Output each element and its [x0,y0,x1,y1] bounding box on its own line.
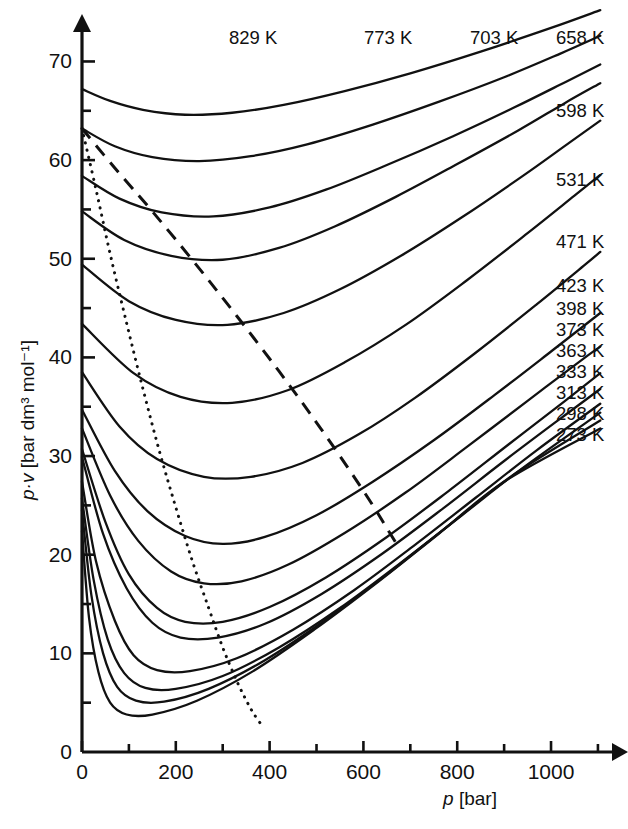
series-label-363K: 363 K [556,340,605,361]
series-label-598K: 598 K [556,100,605,121]
series-label-398K: 398 K [556,298,605,319]
pv-vs-p-isotherm-chart: 02004006008001000 010203040506070 829 K7… [0,0,628,829]
isotherm-curves-layer [82,10,600,716]
isotherm-curve-363K [82,389,600,639]
y-tick-label: 20 [49,543,72,566]
series-label-829K: 829 K [229,27,278,48]
series-label-773K: 773 K [364,27,413,48]
y-tick-label: 30 [49,444,72,467]
y-tick-label: 10 [49,641,72,664]
isotherm-curve-773K [82,36,600,161]
x-axis-title: p [bar] [442,788,497,809]
x-tick-label: 1000 [528,760,575,783]
isotherm-curve-273K [82,428,600,716]
series-label-273K: 273 K [556,424,605,445]
x-axis-ticks [82,741,598,752]
series-label-373K: 373 K [556,319,605,340]
series-label-531K: 531 K [556,169,605,190]
x-axis-tick-labels: 02004006008001000 [76,760,574,783]
x-tick-label: 400 [252,760,287,783]
series-label-423K: 423 K [556,275,605,296]
series-label-313K: 313 K [556,382,605,403]
y-tick-label: 0 [60,740,72,763]
x-tick-label: 600 [346,760,381,783]
y-tick-label: 40 [49,345,72,368]
x-axis-arrow-head [612,743,628,761]
isotherm-curve-398K [82,347,600,585]
isotherm-curve-373K [82,373,600,623]
isotherm-curve-423K [82,313,600,544]
isotherm-curve-313K [82,413,600,690]
y-axis-tick-labels: 010203040506070 [49,49,72,763]
series-label-658K: 658 K [556,27,605,48]
x-tick-label: 800 [440,760,475,783]
series-label-333K: 333 K [556,361,605,382]
x-tick-label: 0 [76,760,88,783]
y-axis-title: p·v [bar dm³ mol⁻¹] [17,340,38,501]
auxiliary-loci-layer [82,129,397,725]
isotherm-curve-829K [82,10,600,115]
series-label-471K: 471 K [556,231,605,252]
y-axis-arrow-head [73,14,91,32]
y-tick-label: 60 [49,148,72,171]
series-label-298K: 298 K [556,403,605,424]
y-tick-label: 70 [49,49,72,72]
x-tick-label: 200 [158,760,193,783]
y-tick-label: 50 [49,247,72,270]
series-label-703K: 703 K [470,27,519,48]
isotherm-curve-703K [82,64,600,216]
isotherm-curve-658K [82,83,600,260]
figure-container: 02004006008001000 010203040506070 829 K7… [0,0,628,829]
